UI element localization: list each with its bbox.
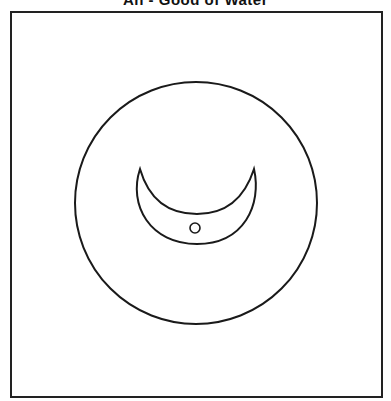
outer-circle [75, 82, 317, 324]
dot-icon [190, 223, 200, 233]
symbol-figure [0, 0, 391, 401]
